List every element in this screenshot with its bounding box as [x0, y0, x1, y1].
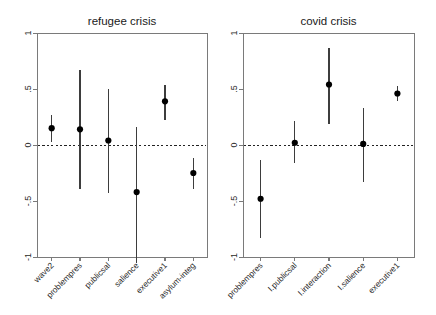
y-tick-label-left-3: -.5: [23, 196, 33, 207]
y-tick-label-right-2: 0: [229, 142, 239, 147]
x-axis-label-right-2: I.interaction: [296, 260, 334, 298]
point-estimate-right-0: [258, 196, 264, 202]
point-estimate-right-3: [360, 141, 366, 147]
point-estimate-right-1: [292, 140, 298, 146]
point-estimate-right-2: [326, 81, 332, 87]
panel-title-left: refugee crisis: [88, 15, 157, 27]
y-tick-label-right-4: -1: [229, 253, 239, 261]
point-estimate-left-1: [77, 126, 83, 132]
point-estimate-left-5: [190, 170, 196, 176]
point-estimate-left-2: [105, 137, 111, 143]
y-tick-label-left-4: -1: [23, 253, 33, 261]
y-tick-label-right-3: -.5: [229, 196, 239, 207]
y-tick-label-left-1: .5: [23, 85, 33, 93]
x-axis-label-right-0: problempres: [225, 260, 265, 300]
point-estimate-left-4: [162, 98, 168, 104]
plot-canvas: refugee crisis1.50-.5-1wave2problempresp…: [0, 0, 436, 315]
panel-right: covid crisis1.50-.5-1problempresI.public…: [225, 15, 415, 300]
y-tick-label-right-0: 1: [229, 30, 239, 35]
panel-left: refugee crisis1.50-.5-1wave2problempresp…: [23, 15, 207, 301]
y-tick-label-right-1: .5: [229, 85, 239, 93]
x-axis-label-right-4: executive1: [366, 260, 401, 295]
panel-title-right: covid crisis: [300, 15, 356, 27]
point-estimate-left-3: [134, 189, 140, 195]
point-estimate-left-0: [49, 125, 55, 131]
x-axis-label-right-3: I.salience: [335, 260, 367, 292]
x-axis-label-left-0: wave2: [31, 260, 56, 285]
y-tick-label-left-0: 1: [23, 30, 33, 35]
y-tick-label-left-2: 0: [23, 142, 33, 147]
x-axis-label-left-2: publicsal: [82, 260, 112, 290]
point-estimate-right-4: [394, 90, 400, 96]
coefficient-plot-figure: refugee crisis1.50-.5-1wave2problempresp…: [0, 0, 436, 315]
x-axis-label-right-1: I.publicsal: [266, 260, 299, 293]
